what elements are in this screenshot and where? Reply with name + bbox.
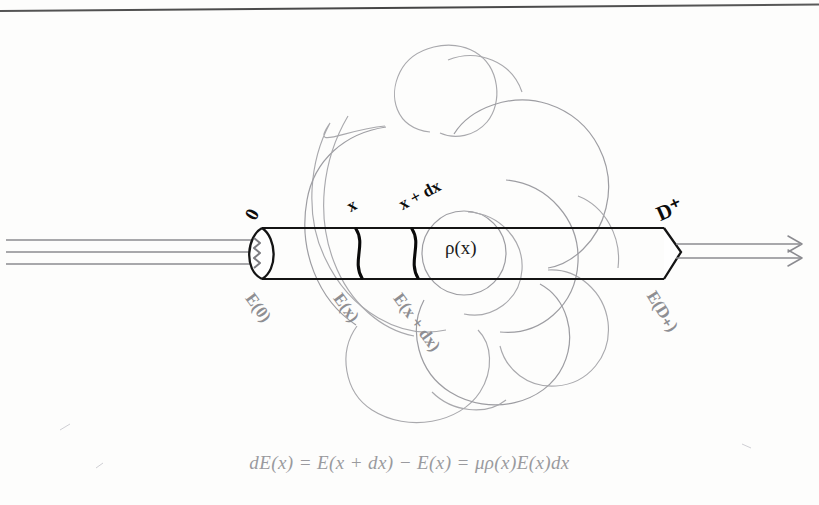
slice-x-plus-dx xyxy=(412,229,418,278)
attenuation-formula: dE(x) = E(x + dx) − E(x) = μρ(x)E(x)dx xyxy=(0,452,819,474)
formula-text: dE(x) = E(x + dx) − E(x) = μρ(x)E(x)dx xyxy=(249,452,569,473)
slice-boundaries xyxy=(356,229,418,278)
outgoing-beam xyxy=(676,236,802,266)
label-density: ρ(x) xyxy=(445,238,477,257)
slice-x xyxy=(356,229,362,278)
page-canvas: .faint { fill: none; stroke: #a9a9ad; st… xyxy=(0,0,819,505)
annotation-loops xyxy=(60,45,751,468)
figure-svg: .faint { fill: none; stroke: #a9a9ad; st… xyxy=(0,0,819,505)
incoming-beam xyxy=(6,240,253,264)
